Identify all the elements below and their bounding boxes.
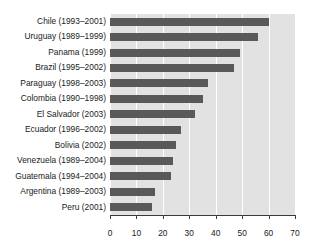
x-axis-tick (110, 215, 111, 219)
x-axis-tick-label: 70 (285, 228, 305, 238)
bar-row (110, 107, 295, 122)
bar (110, 126, 181, 134)
y-axis-label: Peru (2001) (0, 200, 106, 215)
x-axis-line (110, 215, 295, 216)
bar (110, 203, 152, 211)
bar-chart-figure: Chile (1993–2001)Uruguay (1989–1999)Pana… (0, 0, 310, 248)
bar (110, 141, 176, 149)
bar-row (110, 184, 295, 199)
cropped-title-artifact (70, 0, 250, 6)
y-axis-label: Guatemala (1994–2004) (0, 169, 106, 184)
x-axis-tick-label: 60 (259, 228, 279, 238)
y-axis-label: Bolivia (2002) (0, 138, 106, 153)
y-axis-label: Paraguay (1998–2003) (0, 76, 106, 91)
bar (110, 33, 258, 41)
x-axis-tick-label: 40 (206, 228, 226, 238)
x-axis-tick (136, 215, 137, 219)
y-axis-label: El Salvador (2003) (0, 107, 106, 122)
bar-row (110, 169, 295, 184)
bar-row (110, 138, 295, 153)
bar-row (110, 45, 295, 60)
bar (110, 157, 173, 165)
bar-row (110, 200, 295, 215)
y-axis-label: Uruguay (1989–1999) (0, 29, 106, 44)
bar (110, 188, 155, 196)
bar-row (110, 91, 295, 106)
x-axis-tick-label: 0 (100, 228, 120, 238)
x-axis-tick (295, 215, 296, 219)
bar-row (110, 29, 295, 44)
bar (110, 49, 240, 57)
bar-row (110, 122, 295, 137)
y-axis-label: Brazil (1995–2002) (0, 60, 106, 75)
x-axis-tick (189, 215, 190, 219)
bar (110, 110, 195, 118)
y-axis-label: Panama (1999) (0, 45, 106, 60)
x-axis-tick-label: 30 (179, 228, 199, 238)
bar (110, 79, 208, 87)
x-axis-tick (269, 215, 270, 219)
bar-row (110, 153, 295, 168)
plot-area (110, 14, 295, 215)
bar (110, 64, 234, 72)
x-axis-tick-label: 50 (232, 228, 252, 238)
y-axis-label: Ecuador (1996–2002) (0, 122, 106, 137)
y-axis-category-labels: Chile (1993–2001)Uruguay (1989–1999)Pana… (0, 14, 106, 215)
y-axis-label: Argentina (1989–2003) (0, 184, 106, 199)
bar (110, 172, 171, 180)
bar-row (110, 60, 295, 75)
bar (110, 18, 269, 26)
x-axis-tick (163, 215, 164, 219)
x-axis-tick-label: 20 (153, 228, 173, 238)
y-axis-label: Colombia (1990–1998) (0, 91, 106, 106)
bar-row (110, 76, 295, 91)
y-axis-label: Venezuela (1989–2004) (0, 153, 106, 168)
x-axis-tick (242, 215, 243, 219)
bar-row (110, 14, 295, 29)
y-axis-label: Chile (1993–2001) (0, 14, 106, 29)
x-axis-tick-label: 10 (126, 228, 146, 238)
bar (110, 95, 203, 103)
x-axis-tick (216, 215, 217, 219)
